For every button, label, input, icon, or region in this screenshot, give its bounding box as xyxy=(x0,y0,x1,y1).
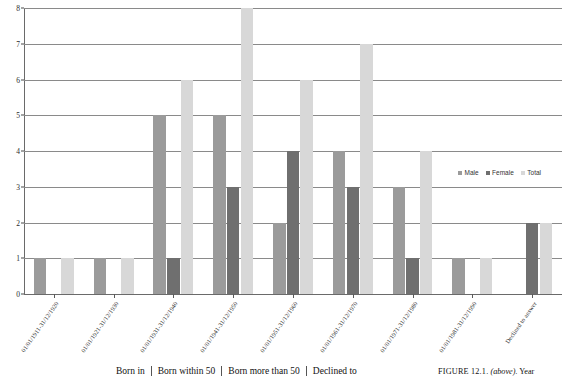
legend-label: Male xyxy=(465,169,479,176)
x-tick-label: 01/01/1921-31/12/1930 xyxy=(79,300,119,354)
bar-total xyxy=(300,80,313,295)
bar-total xyxy=(181,80,194,295)
table-header-cell: Born within 50 xyxy=(151,366,222,376)
bar-group xyxy=(203,8,263,294)
figure-caption-label: FIGURE 12.1. xyxy=(438,367,488,376)
y-tick-label: 7 xyxy=(16,39,20,48)
bar-female xyxy=(526,223,539,295)
bar-male xyxy=(94,258,107,294)
bar-female xyxy=(347,187,360,294)
plot-area: 012345678 xyxy=(24,8,562,294)
chart-figure: 012345678 01/01/1911-31/12/192001/01/192… xyxy=(0,0,566,386)
figure-caption: FIGURE 12.1. (above). Year xyxy=(438,367,534,376)
x-tick-mark xyxy=(114,294,115,298)
bar-male xyxy=(393,187,406,294)
x-tick-label: 01/01/1971-31/12/1980 xyxy=(378,300,418,354)
y-tick-label: 3 xyxy=(16,182,20,191)
x-tick-label: 01/01/1931-31/12/1940 xyxy=(139,300,179,354)
bar-group xyxy=(144,8,204,294)
x-tick-mark xyxy=(413,294,414,298)
x-tick-mark xyxy=(293,294,294,298)
bar-total xyxy=(61,258,74,294)
table-header-cell: Born in xyxy=(110,366,151,376)
bar-group xyxy=(442,8,502,294)
bar-male xyxy=(333,151,346,294)
legend-item-total: Total xyxy=(521,169,541,176)
legend-swatch-icon xyxy=(458,171,462,175)
bar-group xyxy=(383,8,443,294)
bottom-row: Born inBorn within 50Born more than 50De… xyxy=(0,366,566,386)
x-tick-mark xyxy=(54,294,55,298)
legend-item-male: Male xyxy=(458,169,479,176)
y-tick-label: 8 xyxy=(16,4,20,13)
y-tick-label: 6 xyxy=(16,75,20,84)
x-tick-mark xyxy=(353,294,354,298)
bar-female xyxy=(167,258,180,294)
y-tick-label: 2 xyxy=(16,218,20,227)
legend-item-female: Female xyxy=(486,169,514,176)
bar-female xyxy=(287,151,300,294)
bar-female xyxy=(406,258,419,294)
bar-group xyxy=(24,8,84,294)
bar-male xyxy=(273,223,286,295)
bar-female xyxy=(227,187,240,294)
x-tick-label: Declined to answer xyxy=(504,300,538,345)
bars-layer xyxy=(24,8,562,294)
bar-total xyxy=(420,151,433,294)
bar-total xyxy=(540,223,553,295)
figure-caption-position-note: (above). xyxy=(490,367,517,376)
legend-swatch-icon xyxy=(486,171,490,175)
chart-legend: MaleFemaleTotal xyxy=(458,169,541,176)
bar-group xyxy=(502,8,562,294)
bar-total xyxy=(360,44,373,294)
x-tick-label: 01/01/1961-31/12/1970 xyxy=(318,300,358,354)
y-tick-label: 5 xyxy=(16,111,20,120)
table-header-fragment: Born inBorn within 50Born more than 50De… xyxy=(110,366,363,376)
bar-male xyxy=(213,115,226,294)
x-tick-mark xyxy=(472,294,473,298)
x-tick-label: 01/01/1911-31/12/1920 xyxy=(19,300,59,353)
bar-total xyxy=(121,258,134,294)
bar-total xyxy=(480,258,493,294)
y-tick-label: 4 xyxy=(16,147,20,156)
figure-caption-text: Year xyxy=(519,367,534,376)
legend-swatch-icon xyxy=(521,171,525,175)
legend-label: Total xyxy=(527,169,541,176)
x-tick-mark xyxy=(532,294,533,298)
bar-male xyxy=(153,115,166,294)
bar-group xyxy=(84,8,144,294)
bar-group xyxy=(323,8,383,294)
y-tick-label: 0 xyxy=(16,290,20,299)
bar-male xyxy=(34,258,47,294)
y-tick-label: 1 xyxy=(16,254,20,263)
legend-label: Female xyxy=(492,169,514,176)
bar-group xyxy=(263,8,323,294)
bar-total xyxy=(241,8,254,294)
x-tick-label: 01/01/1951-31/12/1960 xyxy=(258,300,298,354)
bar-male xyxy=(452,258,465,294)
x-tick-label: 01/01/1941-31/12/1950 xyxy=(198,300,238,354)
table-header-cell: Born more than 50 xyxy=(221,366,306,376)
x-tick-mark xyxy=(173,294,174,298)
x-tick-mark xyxy=(233,294,234,298)
table-header-cell: Declined to xyxy=(306,366,363,376)
x-tick-label: 01/01/1981-31/12/1990 xyxy=(438,300,478,354)
